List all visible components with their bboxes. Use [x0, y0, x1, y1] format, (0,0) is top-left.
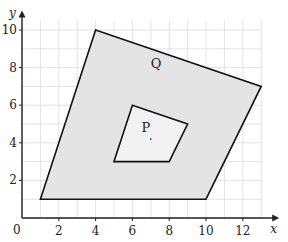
coordinate-diagram: Q P x y 0 24681012246810 [0, 0, 288, 242]
y-tick-label: 2 [9, 173, 17, 187]
x-tick-label: 4 [92, 224, 100, 238]
x-tick-label: 8 [165, 224, 173, 238]
x-axis-label: x [270, 222, 277, 236]
y-axis-label: y [8, 6, 16, 20]
x-tick-label: 10 [198, 224, 213, 238]
marked-point [150, 138, 152, 140]
origin-label: 0 [13, 223, 21, 237]
y-tick-label: 4 [9, 136, 17, 150]
y-tick-label: 6 [9, 98, 17, 112]
label-q: Q [151, 56, 162, 71]
y-tick-label: 10 [2, 23, 17, 37]
x-tick-label: 6 [129, 224, 137, 238]
label-p: P [142, 120, 151, 135]
y-tick-label: 8 [9, 61, 17, 75]
x-tick-label: 12 [235, 224, 250, 238]
x-tick-label: 2 [55, 224, 63, 238]
